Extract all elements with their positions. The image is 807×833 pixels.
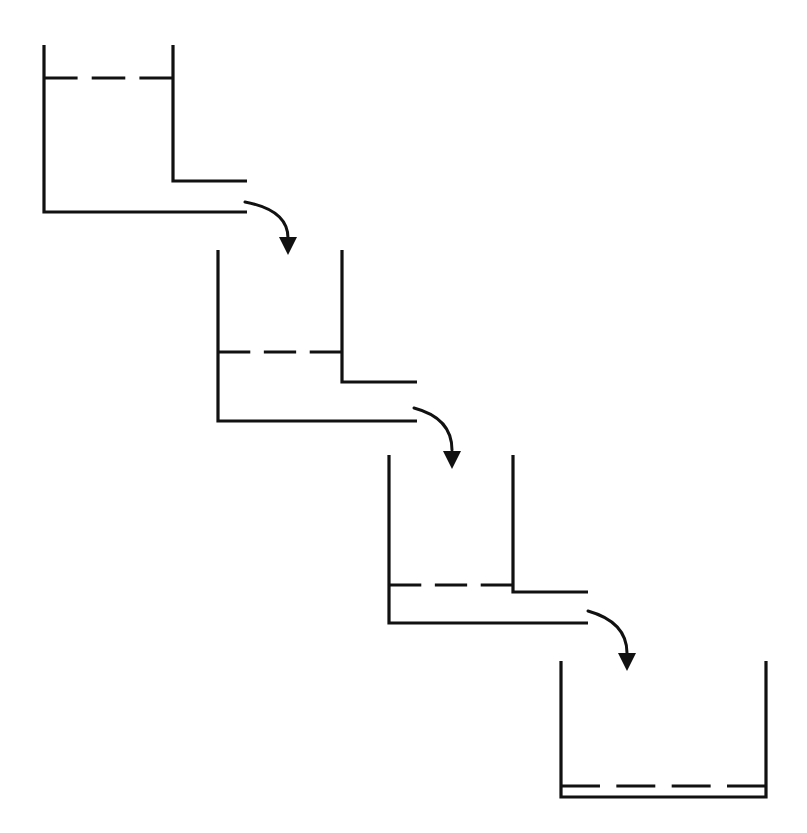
- flow-arrow-1-group: [245, 202, 297, 255]
- flow-arrow-3-head: [618, 653, 636, 671]
- flow-arrow-3-curve: [588, 611, 627, 653]
- flow-arrow-1-head: [279, 237, 297, 255]
- vessel-2-walls: [218, 250, 417, 421]
- vessel-1-group: [44, 45, 247, 212]
- vessel-1-walls: [44, 45, 247, 212]
- vessel-3-group: [389, 455, 588, 623]
- vessel-2-group: [218, 250, 417, 421]
- cascading-vessels-diagram: [0, 0, 807, 833]
- flow-arrow-3-group: [588, 611, 636, 671]
- flow-arrow-2-curve: [414, 408, 452, 450]
- diagram-canvas: [0, 0, 807, 833]
- flow-arrow-2-group: [414, 408, 461, 469]
- vessel-4-walls: [561, 661, 766, 797]
- vessel-3-walls: [389, 455, 588, 623]
- flow-arrow-1-curve: [245, 202, 288, 238]
- flow-arrow-2-head: [443, 451, 461, 469]
- vessel-4-group: [561, 661, 766, 797]
